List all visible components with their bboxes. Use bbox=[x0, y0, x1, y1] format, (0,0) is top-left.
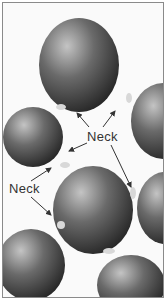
neck-left-center bbox=[60, 162, 70, 168]
neck-top-right bbox=[126, 93, 132, 103]
neck-label-left: Neck bbox=[9, 181, 40, 196]
neck-right-center bbox=[130, 187, 136, 199]
neck-left-lower-center bbox=[57, 221, 65, 229]
particle-top bbox=[39, 18, 119, 112]
diagram-frame: Neck Neck bbox=[2, 2, 164, 298]
particle-center bbox=[53, 166, 133, 254]
particle-left-lower bbox=[3, 229, 65, 298]
particle-right-upper bbox=[131, 83, 164, 159]
neck-bottom bbox=[103, 248, 115, 254]
neck-label-upper: Neck bbox=[87, 129, 118, 144]
particle-left-upper bbox=[3, 107, 63, 167]
neck-top-left bbox=[56, 104, 66, 110]
particles-illustration bbox=[3, 3, 164, 298]
particle-right-lower bbox=[137, 172, 164, 244]
particle-bottom bbox=[97, 255, 164, 298]
